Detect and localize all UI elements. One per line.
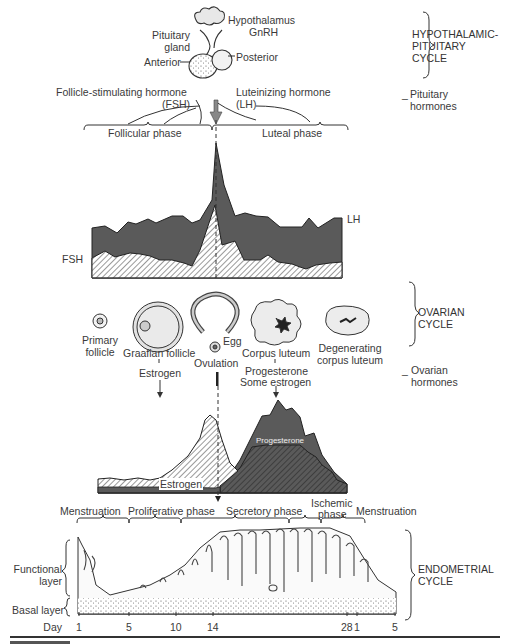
ovarian-cycle-label-1: OVARIAN [418, 306, 464, 318]
basal-layer-brace [64, 598, 70, 616]
egg-label: Egg [223, 335, 242, 347]
hypothalamic-cycle-label-3: CYCLE [412, 52, 447, 64]
endometrial-cycle-label-1: ENDOMETRIAL [418, 563, 494, 575]
secretory-phase-label: Secretory phase [226, 505, 302, 517]
corpus-luteum-label: Corpus luteum [242, 347, 310, 359]
day-tick-1: 1 [76, 621, 82, 633]
graafian-follicle-label: Graafian follicle [123, 347, 195, 359]
fsh-abbrev-label: (FSH) [162, 98, 190, 110]
progesterone-curve-label: Progesterone [256, 435, 304, 447]
ovarian-hormones-label-2: hormones [411, 376, 458, 388]
day-tick-5-next: 5 [392, 621, 398, 633]
proliferative-phase-label: Proliferative phase [128, 505, 215, 517]
ischemic-phase-label: phase [318, 508, 347, 520]
pituitary-hormones-label-1: Pituitary [410, 88, 448, 100]
endometrial-brace [405, 530, 415, 620]
hypothalamic-cycle-label-1: HYPOTHALAMIC- [412, 28, 498, 40]
primary-follicle-label-1: Primary [70, 334, 130, 346]
functional-layer-label-2: layer [4, 575, 62, 587]
lh-curve-label: LH [347, 213, 360, 225]
lh-fsh-chart [92, 143, 342, 278]
day-tick-1-next: 1 [354, 621, 360, 633]
functional-layer-label-1: Functional [4, 563, 62, 575]
menstruation-phase-label: Menstruation [60, 505, 121, 517]
some-estrogen-label: Some estrogen [240, 376, 311, 388]
gland-label: gland [140, 41, 190, 53]
fsh-curve-label: FSH [62, 253, 83, 265]
hypothalamic-cycle-label-2: PITUITARY [412, 40, 466, 52]
pituitary-hormones-label-2: hormones [410, 100, 457, 112]
luteal-phase-label: Luteal phase [262, 127, 322, 139]
posterior-label: Posterior [236, 51, 278, 63]
degenerating-label-2: corpus luteum [312, 354, 388, 366]
ovarian-cycle-label-2: CYCLE [418, 318, 453, 330]
anterior-label: Anterior [144, 56, 181, 68]
hypothalamus-label: Hypothalamus [228, 14, 295, 26]
basal-layer-label: Basal layer [4, 604, 64, 616]
progesterone-arrow-icon [273, 392, 279, 398]
menstruation-end-label: Menstruation [356, 505, 417, 517]
ovulation-label: Ovulation [194, 357, 238, 369]
ovarian-hormones-dash: _ [402, 364, 408, 376]
pituitary-hormones-dash: _ [402, 88, 408, 100]
pituitary-label: Pituitary [140, 29, 190, 41]
caption-divider [10, 636, 500, 638]
day-tick-14: 14 [207, 621, 219, 633]
pituitary-gland-illustration [189, 7, 232, 78]
degenerating-label-1: Degenerating [312, 342, 388, 354]
functional-layer-brace [62, 540, 70, 596]
estrogen-arrow-icon [157, 392, 163, 398]
fsh-hormone-label: Follicle-stimulating hormone [56, 86, 187, 98]
lh-hormone-label: Luteinizing hormone [236, 86, 331, 98]
lh-abbrev-label: (LH) [236, 98, 256, 110]
endometrial-cycle-label-2: CYCLE [418, 575, 453, 587]
day-tick-28: 28 [341, 621, 353, 633]
ovarian-hormone-chart [98, 400, 347, 493]
ovarian-hormones-label-1: Ovarian [411, 364, 448, 376]
follicular-phase-label: Follicular phase [108, 127, 182, 139]
estrogen-curve-label: Estrogen [159, 478, 203, 490]
primary-follicle-label-2: follicle [70, 346, 130, 358]
day-label: Day [20, 621, 62, 633]
endometrium-illustration [78, 528, 396, 614]
day-tick-10: 10 [170, 621, 182, 633]
day-tick-5: 5 [126, 621, 132, 633]
estrogen-label: Estrogen [139, 367, 181, 379]
gnrh-label: GnRH [249, 26, 278, 38]
